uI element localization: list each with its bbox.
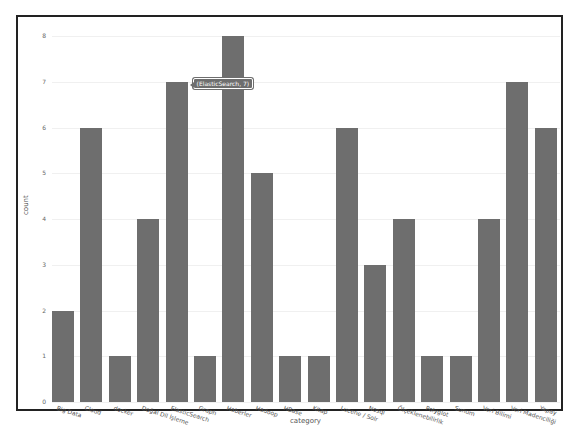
x-axis-title: category — [290, 417, 321, 425]
bar-7[interactable] — [251, 173, 273, 402]
bar-16[interactable] — [506, 82, 528, 402]
y-tick-label: 3 — [36, 261, 46, 268]
x-tick-label: HBase — [283, 404, 303, 417]
y-tick-label: 2 — [36, 307, 46, 314]
gridline — [52, 173, 560, 174]
y-tick-label: 8 — [36, 32, 46, 39]
bar-9[interactable] — [308, 356, 330, 402]
bar-10[interactable] — [336, 128, 358, 403]
bar-8[interactable] — [279, 356, 301, 402]
y-tick-label: 4 — [36, 215, 46, 222]
bar-14[interactable] — [450, 356, 472, 402]
gridline — [52, 128, 560, 129]
gridline — [52, 36, 560, 37]
x-tick-label: docker — [113, 404, 134, 417]
bar-chart: 012345678Big DataClouddockerDoğal Dil İş… — [0, 0, 579, 443]
bar-4[interactable] — [166, 82, 188, 402]
bar-2[interactable] — [109, 356, 131, 402]
bar-6[interactable] — [222, 36, 244, 402]
x-tick-label: Big Data — [56, 404, 83, 419]
bar-11[interactable] — [364, 265, 386, 402]
hover-tooltip: (ElasticSearch, 7) — [193, 78, 254, 89]
x-tick-label: Haberler — [226, 404, 253, 419]
y-tick-label: 6 — [36, 124, 46, 131]
y-tick-label: 7 — [36, 78, 46, 85]
bar-15[interactable] — [478, 219, 500, 402]
gridline — [52, 82, 560, 83]
y-tick-label: 5 — [36, 169, 46, 176]
bar-17[interactable] — [535, 128, 557, 403]
y-axis-title: count — [22, 195, 30, 215]
bar-5[interactable] — [194, 356, 216, 402]
bar-1[interactable] — [80, 128, 102, 403]
gridline — [52, 402, 560, 403]
bar-12[interactable] — [393, 219, 415, 402]
y-tick-label: 0 — [36, 398, 46, 405]
x-tick-label: Kitap — [311, 404, 328, 415]
bar-0[interactable] — [52, 311, 74, 403]
x-tick-label: Hadoop — [255, 404, 279, 418]
x-tick-label: Veri Bilimi — [482, 404, 513, 420]
x-tick-label: Sunum — [453, 404, 475, 417]
bar-3[interactable] — [137, 219, 159, 402]
y-tick-label: 1 — [36, 352, 46, 359]
bar-13[interactable] — [421, 356, 443, 402]
x-tick-label: Cloud — [84, 404, 102, 416]
